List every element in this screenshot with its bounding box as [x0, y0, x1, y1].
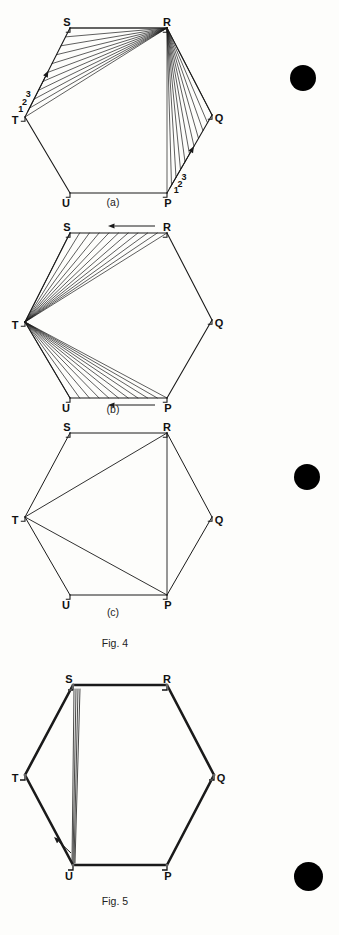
figure-4b-drawing: RSTUPQ	[0, 215, 245, 415]
vertex-label-p: P	[164, 197, 171, 209]
vertex-label-s: S	[63, 16, 70, 28]
vertex-label-t: T	[12, 319, 19, 331]
vertex-label-q: Q	[215, 317, 224, 329]
chord-R-to-TS-3	[39, 28, 168, 90]
chord-R-to-TS-2	[34, 28, 167, 99]
fig4b-edge-UT	[25, 322, 70, 398]
vertex-label-s: S	[63, 221, 70, 233]
fig4c-edge-QP	[167, 517, 212, 595]
fig4b-edge-RQ	[167, 233, 212, 320]
chord-R-to-TS-4	[43, 28, 167, 81]
vertex-label-p: P	[164, 599, 171, 611]
fan-from-R	[25, 28, 212, 193]
fig4a-edge-UT	[25, 117, 70, 193]
vertex-label-u: U	[62, 402, 70, 414]
fig5-edge-QP	[167, 775, 214, 865]
chord-T-to-SR-2	[25, 233, 89, 322]
chord-T-to-UP-2	[25, 322, 89, 398]
vertex-label-s: S	[65, 673, 72, 685]
vertex-label-q: Q	[215, 514, 224, 526]
sheaf-arrow	[54, 837, 71, 853]
fig4c-edge-RQ	[167, 433, 212, 517]
figure-5-caption: Fig. 5	[85, 895, 145, 907]
diagonals	[25, 433, 167, 595]
diagonal-TP	[25, 517, 167, 595]
chord-T-to-SR-8	[25, 233, 148, 322]
margin-dot-3	[294, 862, 323, 891]
vertex-label-q: Q	[215, 112, 224, 124]
fig4b-edge-TS	[25, 233, 70, 322]
figure-4c-sublabel: (c)	[93, 606, 133, 618]
figure-4a-sublabel: (a)	[93, 196, 133, 208]
fig4c-notch-t	[21, 516, 25, 521]
chord-T-to-UP-9	[25, 322, 157, 398]
figure-4a: RSTUPQ123123	[0, 0, 245, 215]
vertex-label-r: R	[163, 673, 171, 685]
chord-T-to-UP-8	[25, 322, 148, 398]
chord-T-to-SR-7	[25, 233, 138, 322]
vertex-label-u: U	[62, 197, 70, 209]
fig5-edge-TS	[25, 685, 73, 775]
margin-dot-1	[290, 65, 316, 91]
chord-R-to-TS-7	[57, 28, 168, 55]
figure-4c-drawing: RSTUPQ	[0, 415, 245, 615]
figure-5: RSTUPQ	[0, 660, 245, 890]
sheaf-from-S-to-U	[72, 689, 80, 863]
vertex-label-t: T	[12, 514, 19, 526]
vertex-label-s: S	[63, 421, 70, 433]
chord-T-to-UP-7	[25, 322, 138, 398]
vertex-label-t: T	[12, 114, 19, 126]
left-division-label-3: 3	[26, 89, 31, 99]
chord-R-to-TS-0	[25, 28, 167, 117]
vertex-label-p: P	[164, 402, 171, 414]
chord-T-to-SR-6	[25, 233, 128, 322]
fig5-edge-RQ	[167, 685, 214, 775]
chord-T-to-UP-3	[25, 322, 99, 398]
vertex-label-u: U	[62, 599, 70, 611]
vertex-label-u: U	[65, 870, 73, 882]
figure-4b: RSTUPQ	[0, 215, 245, 415]
diagonal-TR	[25, 433, 167, 517]
fig4b-edge-QP	[167, 320, 212, 398]
vertex-label-t: T	[12, 772, 19, 784]
fig5-edge-UT	[25, 775, 73, 865]
vertex-label-r: R	[163, 16, 171, 28]
vertex-label-r: R	[163, 421, 171, 433]
chord-R-to-PQ-7	[167, 28, 199, 138]
fig4a-notch-t	[21, 116, 25, 121]
figure-4b-sublabel: (b)	[93, 403, 133, 415]
figure-4-caption: Fig. 4	[85, 637, 145, 649]
right-division-label-3: 3	[181, 172, 186, 182]
margin-dot-2	[294, 464, 320, 490]
fan-from-T	[25, 233, 167, 398]
figure-4c: RSTUPQ	[0, 415, 245, 615]
fig5-notch-t	[20, 774, 25, 780]
left-division-arrow	[28, 71, 49, 112]
top-edge-arrow	[108, 223, 155, 228]
vertex-label-p: P	[164, 870, 171, 882]
figure-4a-drawing: RSTUPQ123123	[0, 0, 245, 215]
chord-T-to-UP-6	[25, 322, 128, 398]
figure-5-drawing: RSTUPQ	[0, 660, 245, 890]
vertex-label-r: R	[163, 221, 171, 233]
fig4c-edge-UT	[25, 517, 70, 595]
fig4b-notch-t	[21, 321, 25, 326]
fig4c-edge-TS	[25, 433, 70, 517]
chord-T-to-SR-9	[25, 233, 157, 322]
vertex-label-q: Q	[217, 772, 226, 784]
chord-T-to-SR-3	[25, 233, 99, 322]
